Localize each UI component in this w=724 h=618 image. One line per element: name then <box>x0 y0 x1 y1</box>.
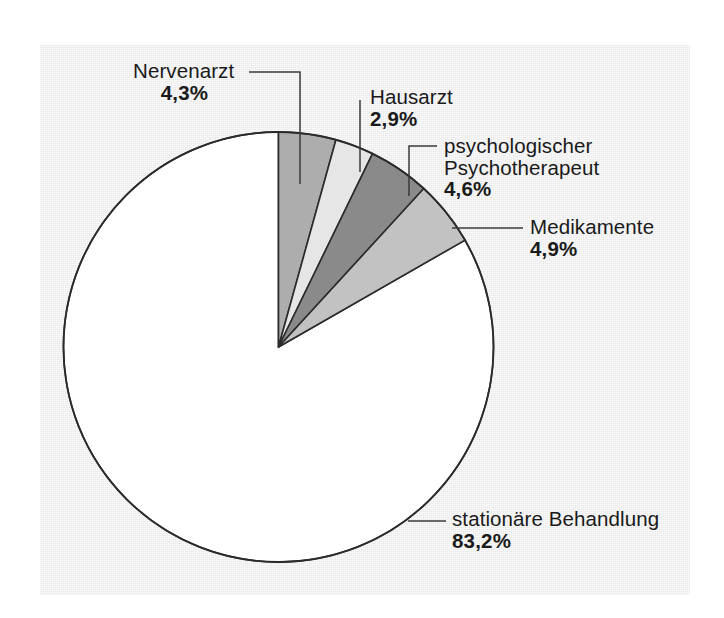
pie-label-medikamente-value: 4,9% <box>530 238 654 260</box>
pie-label-hausarzt-value: 2,9% <box>370 108 453 130</box>
pie-label-nervenarzt: Nervenarzt 4,3% <box>133 60 234 103</box>
pie-label-stationaere-behandlung-name: stationäre Behandlung <box>452 508 659 530</box>
pie-label-hausarzt-name: Hausarzt <box>370 86 453 108</box>
pie-label-psychologischer-psychotherapeut-value: 4,6% <box>444 178 599 200</box>
pie-label-medikamente-name: Medikamente <box>530 216 654 238</box>
pie-chart-figure: Nervenarzt 4,3% Hausarzt 2,9% psychologi… <box>0 0 724 618</box>
pie-label-psychologischer-psychotherapeut-line2: Psychotherapeut <box>444 157 599 179</box>
pie-label-psychologischer-psychotherapeut: psychologischer Psychotherapeut 4,6% <box>444 135 599 200</box>
pie-label-medikamente: Medikamente 4,9% <box>530 216 654 259</box>
pie-label-nervenarzt-value: 4,3% <box>133 82 234 104</box>
pie-label-nervenarzt-name: Nervenarzt <box>133 60 234 82</box>
pie-label-stationaere-behandlung-value: 83,2% <box>452 530 659 552</box>
pie-label-stationaere-behandlung: stationäre Behandlung 83,2% <box>452 508 659 551</box>
pie-label-hausarzt: Hausarzt 2,9% <box>370 86 453 129</box>
pie-label-psychologischer-psychotherapeut-line1: psychologischer <box>444 135 599 157</box>
